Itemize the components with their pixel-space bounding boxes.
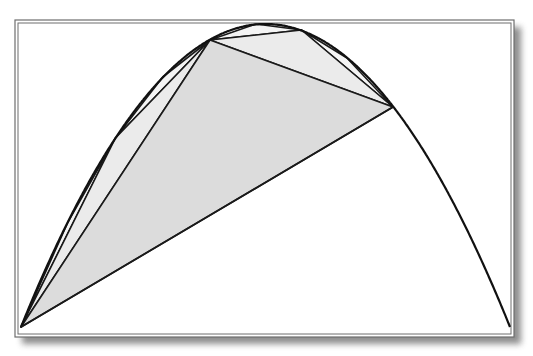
parabola-quadrature-diagram — [0, 0, 533, 356]
